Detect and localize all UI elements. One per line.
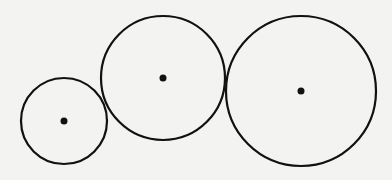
center-dot: [298, 88, 305, 95]
circle-large: [226, 16, 376, 166]
diagram-canvas: [0, 0, 392, 180]
circle-medium: [101, 16, 225, 140]
center-dot: [160, 75, 167, 82]
tangent-circles-diagram: [0, 0, 392, 180]
center-dot: [61, 118, 68, 125]
circle-small: [21, 78, 107, 164]
